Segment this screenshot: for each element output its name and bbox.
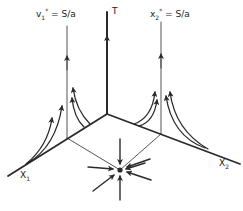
- left-trajectories: [26, 88, 90, 164]
- left-eq-sub: 1: [41, 14, 45, 21]
- left-equilibrium-label: v1* = S/a: [36, 7, 76, 21]
- right-eq-sub: 2: [155, 14, 159, 21]
- left-eq-rhs: = S/a: [48, 9, 76, 19]
- right-eq-rhs: = S/a: [162, 9, 190, 19]
- right-trajectories: [134, 92, 208, 149]
- x2-axis-label: X2: [219, 158, 229, 170]
- x1-label-sub: 1: [26, 175, 30, 182]
- t-label-text: T: [112, 6, 118, 16]
- phase-diagram: [0, 0, 243, 211]
- x1-axis-label: X1: [20, 170, 30, 182]
- x2-label-sub: 2: [225, 163, 229, 170]
- right-equilibrium-label: x2* = S/a: [150, 7, 190, 21]
- equilibrium-point: [117, 167, 122, 172]
- t-axis-label: T: [112, 6, 118, 16]
